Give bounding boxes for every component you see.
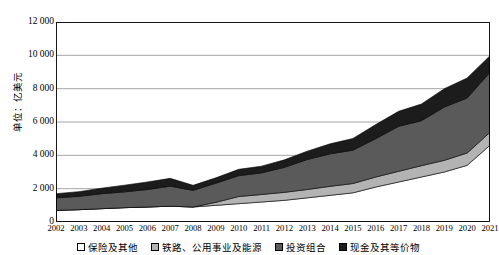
x-axis-tick-label: 2015 xyxy=(344,224,361,233)
x-axis-tick-label: 2006 xyxy=(139,224,156,233)
legend-item[interactable]: 铁路、公用事业及能源 xyxy=(151,240,262,254)
chart-legend: 保险及其他铁路、公用事业及能源投资组合现金及其等价物 xyxy=(0,239,497,255)
x-axis-tick-label: 2013 xyxy=(299,224,316,233)
x-axis-tick-label: 2010 xyxy=(230,224,247,233)
x-axis-tick-labels: 2002200320042005200620072008200920102011… xyxy=(56,224,490,236)
x-axis-tick-label: 2020 xyxy=(459,224,476,233)
legend-item[interactable]: 投资组合 xyxy=(275,240,326,254)
x-axis-tick-label: 2018 xyxy=(413,224,430,233)
legend-item-label: 保险及其他 xyxy=(88,240,138,254)
y-axis-tick-label: 4 000 xyxy=(33,150,54,160)
x-axis-tick-label: 2012 xyxy=(276,224,293,233)
legend-item-label: 铁路、公用事业及能源 xyxy=(162,240,262,254)
y-axis-tick-labels: 02 0004 0006 0008 00010 00012 000 xyxy=(0,0,54,255)
x-axis-tick-label: 2014 xyxy=(322,224,339,233)
plot-svg xyxy=(56,22,490,222)
x-axis-tick-label: 2017 xyxy=(390,224,407,233)
x-axis-tick-label: 2021 xyxy=(481,224,498,233)
x-axis-tick-label: 2005 xyxy=(116,224,133,233)
x-axis-tick-label: 2009 xyxy=(207,224,224,233)
x-axis-tick-label: 2007 xyxy=(162,224,179,233)
x-axis-tick-label: 2004 xyxy=(93,224,110,233)
legend-swatch-icon xyxy=(339,243,347,251)
legend-item[interactable]: 现金及其等价物 xyxy=(339,240,420,254)
x-axis-tick-label: 2011 xyxy=(253,224,270,233)
x-axis-tick-label: 2002 xyxy=(47,224,64,233)
legend-swatch-icon xyxy=(77,243,85,251)
x-axis-tick-label: 2016 xyxy=(367,224,384,233)
y-axis-tick-label: 8 000 xyxy=(33,84,54,94)
legend-swatch-icon xyxy=(151,243,159,251)
y-axis-tick-label: 10 000 xyxy=(28,50,54,60)
legend-item-label: 投资组合 xyxy=(286,240,326,254)
y-axis-tick-label: 12 000 xyxy=(28,17,54,27)
y-axis-tick-label: 2 000 xyxy=(33,184,54,194)
legend-item[interactable]: 保险及其他 xyxy=(77,240,138,254)
legend-swatch-icon xyxy=(275,243,283,251)
legend-item-label: 现金及其等价物 xyxy=(350,240,420,254)
x-axis-tick-label: 2008 xyxy=(184,224,201,233)
y-axis-tick-label: 6 000 xyxy=(33,117,54,127)
x-axis-tick-label: 2003 xyxy=(70,224,87,233)
x-axis-tick-label: 2019 xyxy=(436,224,453,233)
plot-area xyxy=(56,22,490,222)
